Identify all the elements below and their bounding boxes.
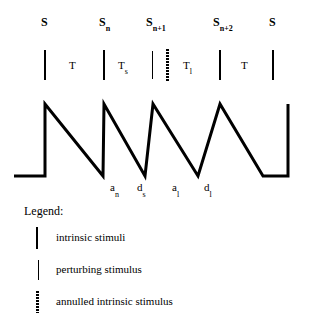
phase-label-a-l: al (172, 182, 179, 196)
phase-label-d-s: ds (137, 182, 146, 196)
legend-label-perturbing: perturbing stimulus (56, 264, 142, 275)
stimulus-timing-figure: S Sn Sn+1 Sn+2 S T Ts Tl T (0, 0, 310, 334)
legend-double-bar-icon (36, 259, 40, 281)
phase-label-a-n: an (110, 182, 119, 196)
phase-label-d-l: dl (204, 182, 212, 196)
legend: Legend: intrinsic stimuli perturbing sti… (0, 205, 310, 334)
legend-dotted-bar-icon (36, 291, 39, 313)
legend-title: Legend: (24, 205, 63, 217)
legend-label-annulled: annulled intrinsic stimulus (56, 296, 173, 307)
legend-solid-bar-icon (36, 227, 38, 249)
phase-label-group: an ds al dl (0, 0, 310, 200)
legend-label-intrinsic: intrinsic stimuli (56, 232, 125, 243)
